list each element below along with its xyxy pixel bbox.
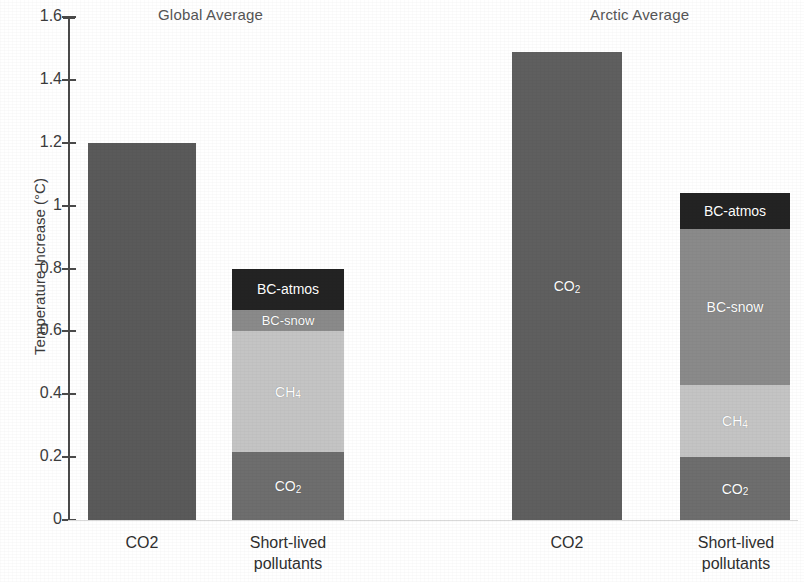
segment-bc-atmos[interactable]: BC-atmos <box>680 193 790 229</box>
segment-label: CO2 <box>722 481 749 497</box>
x-axis-baseline <box>68 520 798 521</box>
segment-co2[interactable]: CO2 <box>232 452 344 520</box>
y-tick-label-1-6: 1.6 <box>40 7 62 25</box>
bar-arctic-co2[interactable]: CO2 <box>512 52 622 520</box>
segment-label: BC-snow <box>707 299 764 315</box>
x-label-arctic-slcp: Short-lived pollutants <box>676 532 796 574</box>
segment-label: CO2 <box>275 478 302 494</box>
y-tick-1 <box>62 205 76 207</box>
bar-global-co2[interactable] <box>88 143 196 520</box>
segment-bc-snow[interactable]: BC-snow <box>680 229 790 385</box>
x-label-global-slcp: Short-lived pollutants <box>228 532 348 574</box>
segment-co2[interactable]: CO2 <box>512 52 622 520</box>
group-title-arctic: Arctic Average <box>590 6 689 23</box>
y-tick-0-6 <box>62 330 76 332</box>
segment-label: BC-snow <box>262 313 315 328</box>
x-label-arctic-co2: CO2 <box>507 532 627 553</box>
y-tick-0-8 <box>62 268 76 270</box>
segment-co2[interactable]: CO2 <box>680 457 790 520</box>
x-label-global-co2: CO2 <box>82 532 202 553</box>
y-axis-title: Temperature Increase (°C) <box>31 142 48 392</box>
segment-label: BC-atmos <box>704 203 766 219</box>
y-tick-label-0: 0 <box>53 510 62 528</box>
segment-bc-snow[interactable]: BC-snow <box>232 310 344 331</box>
y-tick-label-1: 1 <box>53 196 62 214</box>
segment-ch4[interactable]: CH4 <box>232 331 344 451</box>
group-title-global: Global Average <box>158 6 263 23</box>
bar-global-short-lived-pollutants[interactable]: CO2CH4BC-snowBC-atmos <box>232 269 344 521</box>
segment-ch4[interactable]: CH4 <box>680 385 790 457</box>
segment-bc-atmos[interactable]: BC-atmos <box>232 269 344 311</box>
bar-arctic-short-lived-pollutants[interactable]: CO2CH4BC-snowBC-atmos <box>680 193 790 520</box>
y-tick-1-6 <box>62 16 76 18</box>
segment-label: BC-atmos <box>257 281 319 297</box>
y-tick-label-0-2: 0.2 <box>40 447 62 465</box>
segment-label: CO2 <box>554 278 581 294</box>
chart-canvas: Global Average Arctic Average 00.20.40.6… <box>0 0 804 582</box>
segment-co2[interactable] <box>88 143 196 520</box>
y-tick-0-2 <box>62 456 76 458</box>
y-tick-1-2 <box>62 142 76 144</box>
segment-label: CH4 <box>275 384 301 400</box>
y-tick-0-4 <box>62 393 76 395</box>
segment-label: CH4 <box>722 413 748 429</box>
y-tick-label-1-4: 1.4 <box>40 70 62 88</box>
y-tick-1-4 <box>62 79 76 81</box>
